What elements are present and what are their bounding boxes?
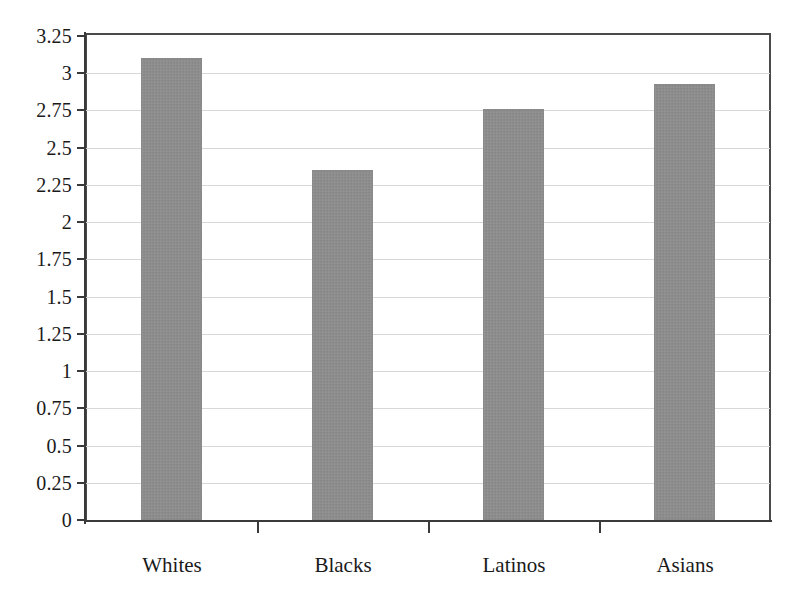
y-axis-tick-label: 0.5 — [2, 436, 72, 456]
y-axis-tick-label: 3.25 — [2, 26, 72, 46]
y-axis-tick — [77, 482, 86, 484]
y-axis-tick-label: 0.75 — [2, 398, 72, 418]
x-axis-label-latinos: Latinos — [424, 552, 604, 578]
bar-whites — [141, 58, 202, 520]
y-axis-tick-label: 2 — [2, 212, 72, 232]
x-axis-label-blacks: Blacks — [253, 552, 433, 578]
y-axis-tick — [77, 445, 86, 447]
y-axis-tick-label: 2.75 — [2, 100, 72, 120]
y-axis-tick — [77, 109, 86, 111]
y-axis-tick — [77, 407, 86, 409]
y-axis-tick-label: 1.25 — [2, 324, 72, 344]
y-axis-tick-label: 3 — [2, 63, 72, 83]
x-axis-tick — [428, 522, 430, 533]
y-axis-tick-label: 2.25 — [2, 175, 72, 195]
x-axis-tick — [257, 522, 259, 533]
y-axis-tick — [77, 333, 86, 335]
y-axis-tick-label: 1.75 — [2, 249, 72, 269]
x-axis-tick — [599, 522, 601, 533]
y-axis-tick-label: 0.25 — [2, 473, 72, 493]
y-axis-tick — [77, 147, 86, 149]
y-axis-tick — [77, 258, 86, 260]
y-axis-tick — [77, 519, 86, 521]
y-axis-tick — [77, 296, 86, 298]
y-axis-tick-label: 1.5 — [2, 287, 72, 307]
y-axis-tick — [77, 72, 86, 74]
y-axis-tick — [77, 35, 86, 37]
y-axis-line — [84, 32, 86, 524]
bar-blacks — [312, 170, 373, 520]
bar-chart-figure: 3.2532.752.52.2521.751.51.2510.750.50.25… — [0, 0, 790, 600]
x-axis-label-whites: Whites — [82, 552, 262, 578]
y-axis-tick-label: 2.5 — [2, 138, 72, 158]
bar-latinos — [483, 109, 544, 520]
y-axis-tick-label: 1 — [2, 361, 72, 381]
x-axis-label-asians: Asians — [595, 552, 775, 578]
y-axis-tick — [77, 221, 86, 223]
y-axis-tick — [77, 370, 86, 372]
y-axis-tick — [77, 184, 86, 186]
bar-asians — [654, 84, 715, 520]
y-axis-tick-label: 0 — [2, 510, 72, 530]
